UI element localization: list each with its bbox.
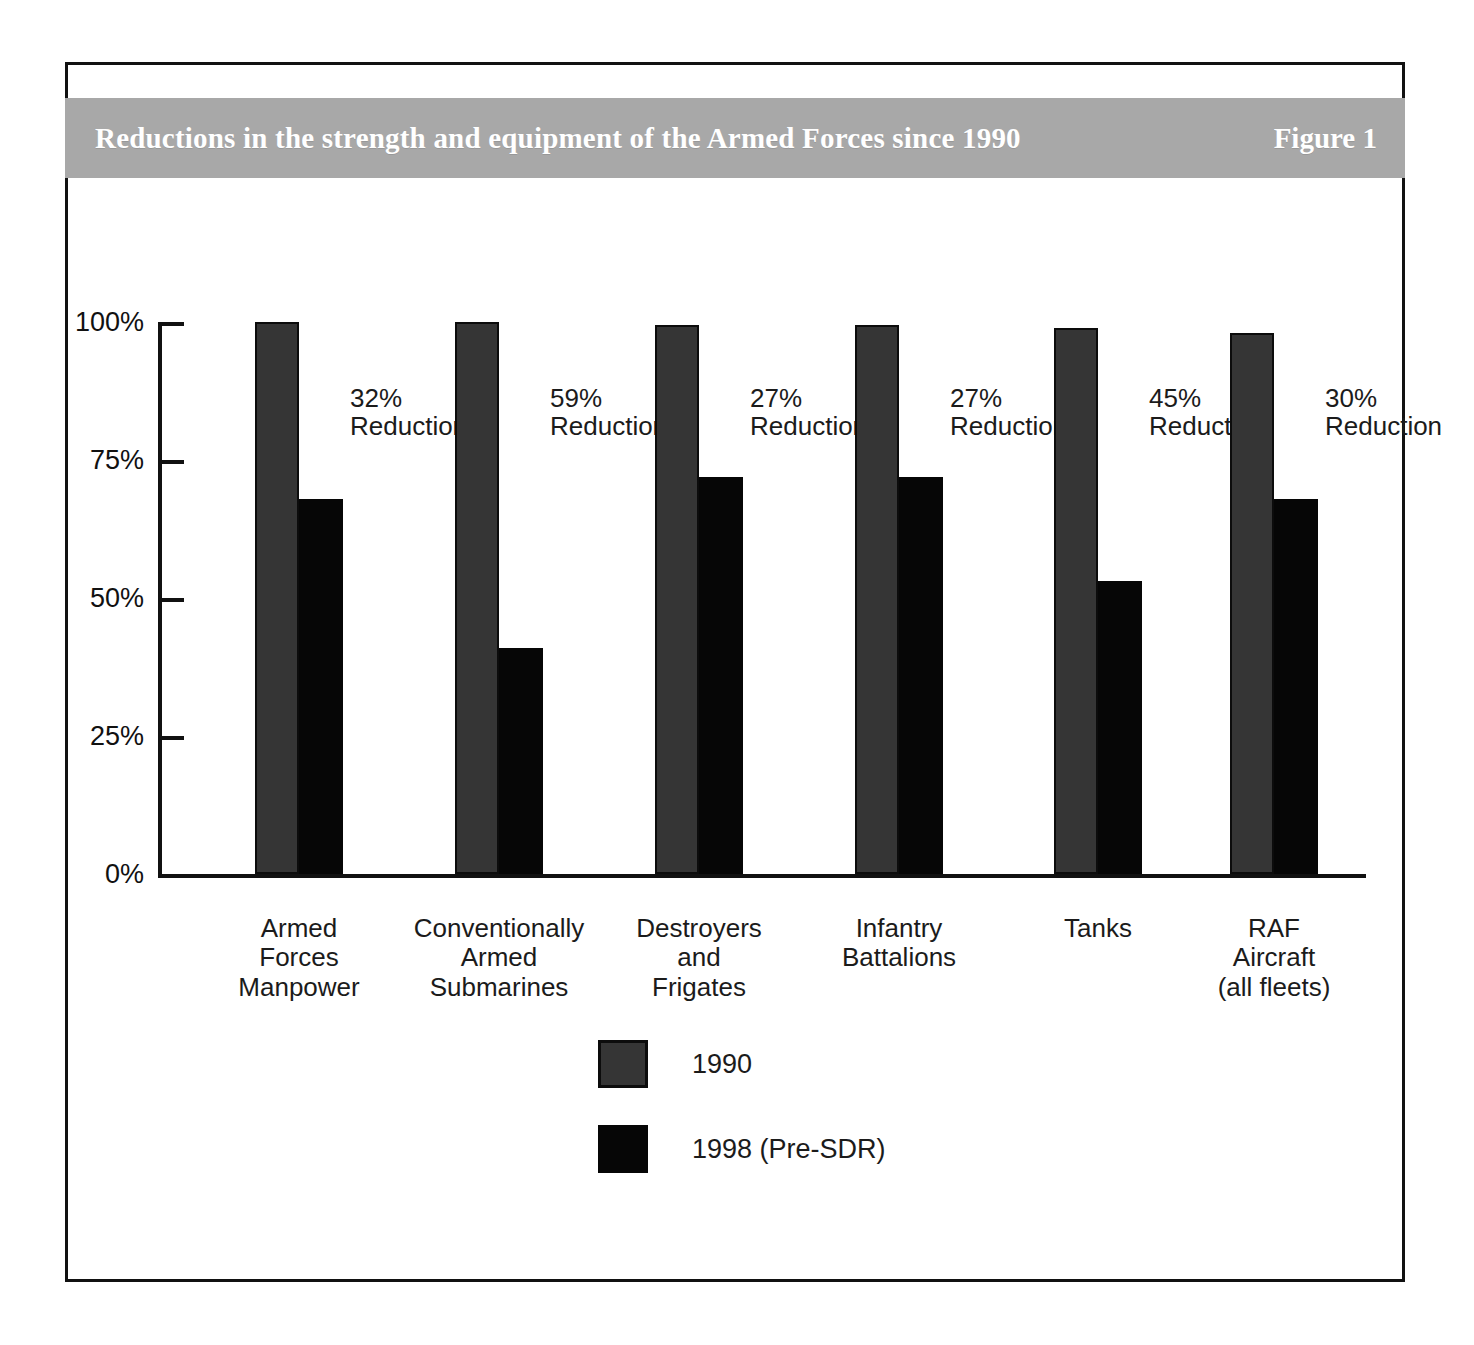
legend-swatch xyxy=(598,1040,648,1088)
bar-1990 xyxy=(1230,333,1274,874)
reduction-word: Reduction xyxy=(350,412,467,440)
category-label-line: Armed xyxy=(184,914,414,943)
bar-group: 45%Reduction xyxy=(1054,322,1244,874)
x-axis-line xyxy=(158,874,1366,878)
legend-label: 1990 xyxy=(692,1049,752,1080)
legend-item: 1990 xyxy=(598,1040,886,1088)
category-label-line: Aircraft xyxy=(1159,943,1389,972)
y-tick-label: 75% xyxy=(90,445,144,476)
reduction-percent: 32% xyxy=(350,384,467,412)
bar-group: 59%Reduction xyxy=(455,322,645,874)
category-label-line: Battalions xyxy=(784,943,1014,972)
category-label-line: and xyxy=(584,943,814,972)
figure-title-band: Reductions in the strength and equipment… xyxy=(65,98,1405,178)
x-category-label: InfantryBattalions xyxy=(784,914,1014,973)
category-label-line: Infantry xyxy=(784,914,1014,943)
reduction-word: Reduction xyxy=(550,412,667,440)
reduction-percent: 27% xyxy=(950,384,1067,412)
legend-label: 1998 (Pre-SDR) xyxy=(692,1134,886,1165)
reduction-percent: 30% xyxy=(1325,384,1442,412)
chart-legend: 19901998 (Pre-SDR) xyxy=(598,1040,886,1210)
y-tick-mark xyxy=(158,460,184,464)
x-category-label: DestroyersandFrigates xyxy=(584,914,814,1002)
y-tick-mark xyxy=(158,874,184,878)
bar-1990 xyxy=(1054,328,1098,874)
reduction-annotation: 59%Reduction xyxy=(550,384,667,440)
category-label-line: (all fleets) xyxy=(1159,973,1389,1002)
reduction-annotation: 32%Reduction xyxy=(350,384,467,440)
category-label-line: Conventionally xyxy=(384,914,614,943)
x-category-label: RAFAircraft(all fleets) xyxy=(1159,914,1389,1002)
bar-1998 xyxy=(899,477,943,874)
bar-group: 27%Reduction xyxy=(855,322,1045,874)
y-tick-label: 0% xyxy=(105,859,144,890)
bar-1990 xyxy=(855,325,899,874)
chart-plot-area: 100%75%50%25%0% 32%Reduction59%Reduction… xyxy=(158,322,1405,874)
x-category-label: ConventionallyArmedSubmarines xyxy=(384,914,614,1002)
bar-group: 27%Reduction xyxy=(655,322,845,874)
figure-title: Reductions in the strength and equipment… xyxy=(95,124,1021,153)
x-category-label: ArmedForcesManpower xyxy=(184,914,414,1002)
y-tick-label: 100% xyxy=(75,307,144,338)
category-label-line: Armed xyxy=(384,943,614,972)
reduction-word: Reduction xyxy=(1325,412,1442,440)
bar-1998 xyxy=(699,477,743,874)
bar-group: 30%Reduction xyxy=(1230,322,1420,874)
y-tick-label: 25% xyxy=(90,721,144,752)
y-tick-label: 50% xyxy=(90,583,144,614)
y-tick-mark xyxy=(158,598,184,602)
bar-1990 xyxy=(455,322,499,874)
bar-group: 32%Reduction xyxy=(255,322,445,874)
reduction-annotation: 30%Reduction xyxy=(1325,384,1442,440)
reduction-word: Reduction xyxy=(750,412,867,440)
category-label-line: Manpower xyxy=(184,973,414,1002)
reduction-annotation: 27%Reduction xyxy=(750,384,867,440)
bar-1998 xyxy=(1274,499,1318,874)
bar-1998 xyxy=(499,648,543,874)
category-label-line: Frigates xyxy=(584,973,814,1002)
category-label-line: Submarines xyxy=(384,973,614,1002)
reduction-percent: 59% xyxy=(550,384,667,412)
reduction-word: Reduction xyxy=(950,412,1067,440)
reduction-annotation: 27%Reduction xyxy=(950,384,1067,440)
bar-1990 xyxy=(655,325,699,874)
legend-swatch xyxy=(598,1125,648,1173)
y-tick-mark xyxy=(158,736,184,740)
legend-item: 1998 (Pre-SDR) xyxy=(598,1125,886,1173)
bar-1998 xyxy=(1098,581,1142,874)
figure-number-label: Figure 1 xyxy=(1274,122,1377,155)
category-label-line: Forces xyxy=(184,943,414,972)
category-label-line: RAF xyxy=(1159,914,1389,943)
y-tick-mark xyxy=(158,322,184,326)
bar-1990 xyxy=(255,322,299,874)
bar-1998 xyxy=(299,499,343,874)
category-label-line: Destroyers xyxy=(584,914,814,943)
reduction-percent: 27% xyxy=(750,384,867,412)
